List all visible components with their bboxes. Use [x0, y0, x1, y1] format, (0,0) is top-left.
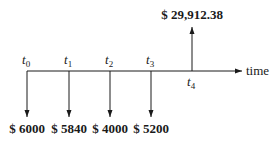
time-axis-label: time — [246, 63, 269, 78]
time-label-t0: t0 — [22, 52, 31, 69]
time-label-t4: t4 — [187, 74, 196, 91]
amount-t0: $ 6000 — [9, 121, 45, 136]
time-label-t1: t1 — [64, 52, 72, 69]
amount-t1: $ 5840 — [51, 121, 87, 136]
time-label-t3: t3 — [146, 52, 155, 69]
amount-t3: $ 5200 — [133, 121, 169, 136]
cash-flow-diagram: time t0 t1 t2 t3 t4 $ 6000 $ 5840 $ 4000… — [0, 0, 278, 145]
amount-t2: $ 4000 — [92, 121, 128, 136]
time-label-t2: t2 — [105, 52, 113, 69]
amount-t4: $ 29,912.38 — [161, 7, 223, 22]
